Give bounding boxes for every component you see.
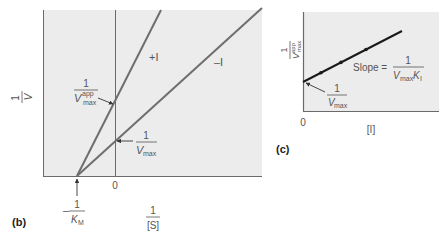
svg-text:M: M <box>78 219 84 226</box>
panel-c: Slope = 1 V max K I 1 V max 1 V app max … <box>276 12 439 155</box>
svg-text:V: V <box>23 92 34 100</box>
panel-b-zero-label: 0 <box>112 180 118 191</box>
data-point <box>339 61 343 65</box>
svg-text:1: 1 <box>405 55 411 66</box>
panel-b-id: (b) <box>12 216 26 228</box>
svg-text:max: max <box>83 99 97 106</box>
panel-c-id: (c) <box>276 143 290 155</box>
svg-text:max: max <box>296 41 302 52</box>
svg-text:Slope =: Slope = <box>353 62 387 73</box>
svg-text:1: 1 <box>279 47 289 52</box>
svg-text:–: – <box>63 204 70 216</box>
data-point <box>319 71 323 75</box>
svg-text:max: max <box>334 102 348 109</box>
svg-text:max: max <box>400 75 414 82</box>
svg-text:[S]: [S] <box>147 220 159 231</box>
svg-text:1: 1 <box>150 205 156 216</box>
panel-b-x-label: 1 [S] <box>146 205 160 231</box>
svg-text:I: I <box>420 75 422 82</box>
annotation-km: – 1 K M <box>63 179 85 226</box>
svg-text:1: 1 <box>334 83 340 94</box>
svg-text:1: 1 <box>10 95 21 101</box>
svg-text:1: 1 <box>83 78 89 89</box>
panel-b: +I –I 1 V app max 1 V max 1 V 0 <box>10 8 262 231</box>
panel-b-y-label: 1 V <box>10 91 34 103</box>
panel-c-zero-label: 0 <box>300 117 306 128</box>
panel-c-y-label: 1 V app max <box>279 41 302 59</box>
data-point <box>364 48 368 52</box>
label-plus-i: +I <box>149 51 158 63</box>
svg-text:app: app <box>82 90 94 98</box>
svg-text:1: 1 <box>74 199 80 210</box>
panel-c-x-label: [I] <box>367 124 376 135</box>
label-minus-i: –I <box>214 56 223 68</box>
svg-text:1: 1 <box>143 130 149 141</box>
figure: +I –I 1 V app max 1 V max 1 V 0 <box>0 0 447 242</box>
svg-text:max: max <box>143 150 157 157</box>
